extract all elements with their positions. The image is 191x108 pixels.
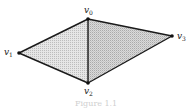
triangle-v0-v1-v2: [19, 19, 88, 83]
vertex-v3: [170, 34, 174, 38]
triangle-v0-v2-v3: [88, 19, 172, 83]
simplicial-complex-diagram: v0 v1 v2 v3 Figure 1.1: [0, 0, 191, 108]
label-v2: v2: [84, 86, 93, 97]
vertex-v0: [86, 17, 90, 21]
label-v3: v3: [177, 31, 186, 42]
label-v0: v0: [84, 5, 93, 16]
label-v1: v1: [4, 47, 13, 58]
vertex-v1: [17, 51, 21, 55]
figure-caption: Figure 1.1: [75, 99, 117, 108]
vertex-v2: [86, 81, 90, 85]
